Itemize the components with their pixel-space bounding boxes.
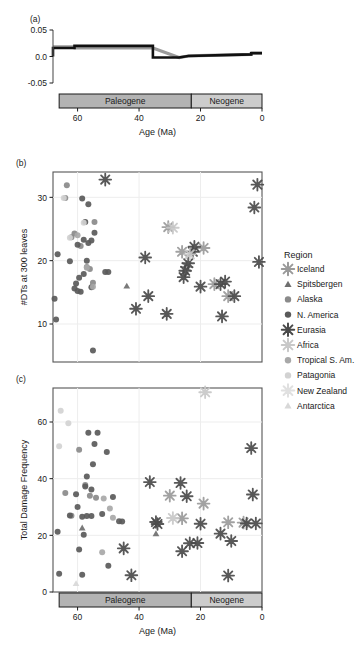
legend-item[interactable]: Tropical S. Am. xyxy=(285,355,355,365)
data-point-circle xyxy=(91,219,97,225)
data-point-asterisk xyxy=(222,570,234,582)
data-point-circle xyxy=(58,408,64,414)
data-point-circle xyxy=(79,196,85,202)
data-point-asterisk xyxy=(178,271,190,283)
data-point-circle xyxy=(95,430,101,436)
era-bar: PaleogeneNeogene xyxy=(59,94,262,108)
data-point-circle xyxy=(85,430,91,436)
figure-container: (a)0.050.0-0.05PaleogeneNeogene6040200Ag… xyxy=(0,0,358,649)
data-point-triangle xyxy=(284,402,291,408)
data-point-circle xyxy=(85,240,91,246)
data-point-asterisk xyxy=(175,477,187,489)
data-point-circle xyxy=(67,513,73,519)
data-point-asterisk xyxy=(99,174,111,186)
x-tick-label: 60 xyxy=(73,113,83,123)
data-point-circle xyxy=(79,514,85,520)
plot-box xyxy=(53,388,262,592)
data-point-circle xyxy=(52,296,58,302)
data-point-circle xyxy=(99,511,105,517)
data-point-asterisk xyxy=(253,256,265,268)
y-tick-label: 0.05 xyxy=(30,25,47,35)
legend-item-label: Antarctica xyxy=(297,401,335,411)
data-point-circle xyxy=(285,372,291,378)
data-point-asterisk xyxy=(195,518,207,530)
x-axis: 6040200Age (Ma) xyxy=(73,108,265,137)
data-point-circle xyxy=(53,317,59,323)
legend-item[interactable]: Africa xyxy=(282,339,319,351)
data-point-asterisk xyxy=(118,543,130,555)
legend-item[interactable]: N. America xyxy=(285,310,339,320)
data-point-circle xyxy=(67,235,73,241)
data-point-asterisk xyxy=(198,498,210,510)
era-label: Paleogene xyxy=(105,96,146,106)
x-tick-label: 0 xyxy=(260,113,265,123)
x-tick-label: 40 xyxy=(134,113,144,123)
data-point-circle xyxy=(81,271,87,277)
data-point-circle xyxy=(90,284,96,290)
data-point-circle xyxy=(285,357,291,363)
data-point-asterisk xyxy=(144,476,156,488)
data-point-circle xyxy=(84,258,90,264)
data-point-circle xyxy=(76,447,82,453)
data-point-asterisk xyxy=(167,512,179,524)
data-point-asterisk xyxy=(167,222,179,234)
data-point-asterisk xyxy=(282,384,294,396)
panel-tag: (c) xyxy=(16,374,26,384)
y-tick-label: 30 xyxy=(38,193,48,203)
legend-item-label: Eurasia xyxy=(297,325,326,335)
y-tick-label: -0.05 xyxy=(28,78,48,88)
legend-item[interactable]: Eurasia xyxy=(282,324,326,336)
data-point-circle xyxy=(55,251,61,257)
data-point-circle xyxy=(91,230,97,236)
legend-item[interactable]: Spitsbergen xyxy=(284,279,342,289)
legend-item[interactable]: Antarctica xyxy=(284,401,335,411)
era-label: Paleogene xyxy=(105,595,146,605)
panel-tag: (a) xyxy=(30,14,41,24)
data-point-circle xyxy=(107,505,113,511)
x-axis-title: Age (Ma) xyxy=(139,127,176,137)
data-point-circle xyxy=(55,529,61,535)
panel-tag: (b) xyxy=(16,158,27,168)
data-point-circle xyxy=(105,269,111,275)
data-point-circle xyxy=(81,220,87,226)
data-point-asterisk xyxy=(282,324,294,336)
legend-item-label: Iceland xyxy=(297,264,325,274)
era-label: Neogene xyxy=(209,96,244,106)
y-tick-label: 40 xyxy=(38,474,48,484)
data-point-asterisk xyxy=(130,303,142,315)
y-axis: 0.050.0-0.05 xyxy=(28,25,53,88)
data-point-circle xyxy=(99,549,105,555)
data-point-asterisk xyxy=(282,339,294,351)
data-point-asterisk xyxy=(176,545,188,557)
data-point-circle xyxy=(104,449,110,455)
data-point-asterisk xyxy=(245,442,257,454)
data-point-asterisk xyxy=(215,528,227,540)
x-tick-label: 40 xyxy=(134,612,144,622)
panel-tag-label: (c) xyxy=(16,374,26,384)
data-point-asterisk xyxy=(181,490,193,502)
y-tick-label: 60 xyxy=(38,417,48,427)
y-axis-title: #DTs at 300 leaves xyxy=(19,228,29,305)
legend-title: Region xyxy=(284,250,313,260)
x-tick-label: 20 xyxy=(196,113,206,123)
data-point-circle xyxy=(64,182,70,188)
x-tick-label: 60 xyxy=(73,612,83,622)
data-point-circle xyxy=(110,494,116,500)
legend-item[interactable]: Alaska xyxy=(285,294,323,304)
era-bar: PaleogeneNeogene xyxy=(59,593,262,607)
legend-item[interactable]: Iceland xyxy=(282,263,325,275)
legend-item-label: Africa xyxy=(297,340,319,350)
data-point-asterisk xyxy=(225,535,237,547)
data-point-asterisk xyxy=(228,290,240,302)
data-point-asterisk xyxy=(152,518,164,530)
legend-item[interactable]: New Zealand xyxy=(282,384,348,396)
legend-item-label: Alaska xyxy=(297,294,323,304)
panel-tag-label: (a) xyxy=(30,14,41,24)
legend: RegionIcelandSpitsbergenAlaskaN. America… xyxy=(282,250,355,411)
data-point-asterisk xyxy=(142,290,154,302)
y-axis: 0204060Total Damage Frequency xyxy=(19,417,53,597)
legend-item[interactable]: Patagonia xyxy=(285,370,336,380)
data-point-asterisk xyxy=(139,252,151,264)
data-point-asterisk xyxy=(192,537,204,549)
legend-item-label: N. America xyxy=(297,310,339,320)
